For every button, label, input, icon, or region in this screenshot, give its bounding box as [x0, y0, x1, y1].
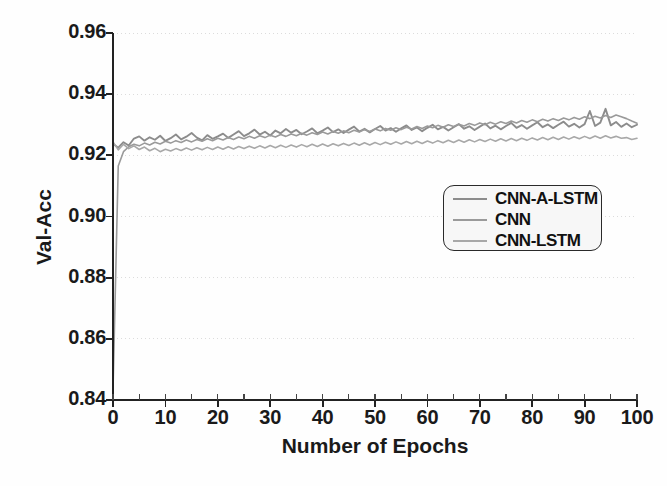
- y-axis-title: Val-Acc: [32, 189, 56, 265]
- y-tick-label: 0.92: [40, 142, 106, 165]
- x-tick-label: 30: [240, 406, 300, 429]
- legend-swatch-2: [453, 240, 487, 242]
- x-tick-label: 50: [345, 406, 405, 429]
- chart-figure: 0.840.860.880.900.920.940.96 01020304050…: [0, 0, 667, 486]
- x-axis-title: Number of Epochs: [255, 434, 495, 458]
- y-tick-label: 0.94: [40, 81, 106, 104]
- legend-item-0[interactable]: CNN-A-LSTM: [444, 188, 601, 210]
- x-tick-label: 90: [555, 406, 615, 429]
- x-tick-label: 40: [293, 406, 353, 429]
- x-tick-label: 10: [135, 406, 195, 429]
- y-tick-label: 0.96: [40, 20, 106, 43]
- x-tick-label: 70: [450, 406, 510, 429]
- x-tick-label: 80: [502, 406, 562, 429]
- legend-item-1[interactable]: CNN: [444, 209, 601, 231]
- y-tick-label: 0.88: [40, 265, 106, 288]
- legend-item-2[interactable]: CNN-LSTM: [444, 230, 601, 252]
- legend[interactable]: CNN-A-LSTM CNN CNN-LSTM: [443, 185, 602, 251]
- x-tick-label: 60: [397, 406, 457, 429]
- x-tick-label: 0: [83, 406, 143, 429]
- legend-swatch-1: [453, 219, 487, 221]
- x-tick-label: 100: [607, 406, 667, 429]
- x-tick-label: 20: [188, 406, 248, 429]
- y-tick-label: 0.86: [40, 326, 106, 349]
- legend-label-0: CNN-A-LSTM: [495, 189, 598, 209]
- legend-swatch-0: [453, 198, 487, 200]
- legend-label-1: CNN: [495, 210, 531, 230]
- legend-label-2: CNN-LSTM: [495, 231, 581, 251]
